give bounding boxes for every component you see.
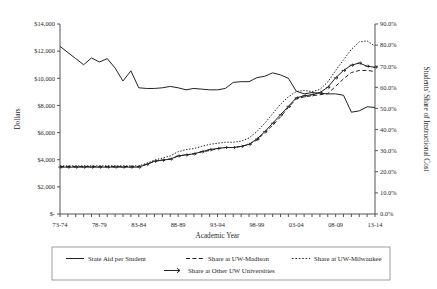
legend-item-label: Share at UW-Madison [208,255,269,262]
right-tick-label: 20.0% [380,168,397,175]
right-tick-label: 90.0% [380,20,397,27]
left-tick-label: $2,000 [37,183,55,190]
x-tick-label: 98-99 [249,221,264,228]
line-chart: $-$2,000$4,000$6,000$8,000$10,000$12,000… [0,0,437,289]
right-tick-label: 0.0% [380,210,394,217]
right-tick-label: 10.0% [380,189,397,196]
left-tick-label: $6,000 [37,129,55,136]
x-tick-label: 08-09 [328,221,343,228]
left-tick-label: $12,000 [34,47,55,54]
x-tick-label: 93-94 [210,221,226,228]
x-tick-label: 78-79 [92,221,107,228]
right-tick-label: 60.0% [380,84,397,91]
right-tick-label: 40.0% [380,126,397,133]
left-tick-label: $- [50,210,55,217]
legend-item-label: State Aid per Student [88,255,146,262]
x-tick-label: 88-89 [171,221,186,228]
left-tick-label: $4,000 [37,156,55,163]
legend-item-label: Share at UW-Milwaukee [314,255,382,262]
left-tick-label: $10,000 [34,75,55,82]
y-axis-title: Dollars [14,108,22,129]
legend-item-label: Share at Other UW Universities [188,267,275,274]
x-tick-label: 83-84 [131,221,147,228]
right-tick-label: 50.0% [380,105,397,112]
right-tick-label: 80.0% [380,41,397,48]
x-tick-label: 13-14 [368,221,384,228]
chart-background [0,0,437,289]
right-tick-label: 70.0% [380,63,397,70]
left-tick-label: $14,000 [34,20,55,27]
x-tick-label: 03-04 [289,221,305,228]
y2-axis-title: Students' Share of Instructional Cost [422,66,430,171]
right-tick-label: 30.0% [380,147,397,154]
left-tick-label: $8,000 [37,102,55,109]
chart-figure: $-$2,000$4,000$6,000$8,000$10,000$12,000… [0,0,437,289]
x-tick-label: 73-74 [53,221,69,228]
x-axis-title: Academic Year [196,232,241,240]
